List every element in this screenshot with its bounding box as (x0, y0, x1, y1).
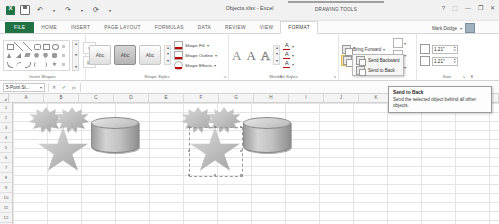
shape-style-gallery-scroll[interactable]: ▴ ▾ ▾ (164, 45, 171, 65)
shape-curve-icon[interactable] (16, 62, 21, 68)
column-header-j[interactable]: J (324, 94, 359, 102)
row-header-8[interactable]: 8 (0, 173, 12, 183)
shape-height-input[interactable]: 1.21" ▴▾ (432, 45, 458, 54)
close-button[interactable]: ✕ (490, 4, 495, 12)
shape-right-triangle-icon[interactable] (16, 53, 21, 58)
name-box-caret-icon[interactable]: ▾ (40, 85, 42, 90)
shape-left-burst-2[interactable] (55, 107, 89, 133)
collapse-ribbon-button[interactable]: ∧ (470, 73, 474, 79)
user-account[interactable]: Mark Dodge ▾ (432, 23, 475, 33)
tab-home[interactable]: HOME (34, 22, 64, 33)
row-header-6[interactable]: 6 (0, 153, 12, 163)
column-header-a[interactable]: A (9, 94, 44, 102)
shapes-gallery-more-icon[interactable]: ▾ (73, 65, 78, 69)
shape-bracket-icon[interactable] (34, 62, 38, 67)
menu-item-send-to-back[interactable]: Send to Back (353, 65, 403, 75)
shape-rectangle-icon[interactable] (7, 44, 14, 50)
bring-forward-caret-icon[interactable]: ▾ (383, 47, 385, 52)
shape-hexagon-icon[interactable] (43, 53, 48, 58)
name-box[interactable]: 5-Point St... ▾ (3, 83, 45, 92)
shape-style-2-selected[interactable]: Abc (114, 45, 136, 65)
selection-pane-button[interactable]: ▾ (393, 38, 406, 48)
wordart-style-2[interactable]: A (246, 49, 255, 62)
shape-triangle-icon[interactable] (7, 53, 11, 58)
shape-oval-icon[interactable] (52, 44, 59, 50)
shape-arrow-icon[interactable] (23, 42, 32, 51)
wordart-gallery[interactable]: A A A (232, 49, 270, 62)
tab-page-layout[interactable]: PAGE LAYOUT (97, 22, 147, 33)
tab-formulas[interactable]: FORMULAS (148, 22, 191, 33)
wordart-gallery-scroll[interactable]: ▴ ▾ ▾ (273, 45, 280, 65)
shape-style-gallery[interactable]: Abc Abc Abc ▴ ▾ ▾ (89, 45, 171, 65)
row-header-13[interactable]: 13 (0, 223, 12, 224)
bring-forward-button[interactable]: Bring Forward ▾ (342, 45, 391, 54)
shape-star-icon[interactable] (52, 62, 57, 67)
tab-review[interactable]: REVIEW (218, 22, 253, 33)
enter-formula-icon[interactable]: ✓ (62, 84, 66, 90)
shape-effects-button[interactable]: Shape Effects ▾ (174, 61, 217, 70)
restore-button[interactable]: ❐ (478, 4, 483, 12)
cancel-formula-icon[interactable]: ✕ (52, 84, 56, 90)
shapes-scroll-up-icon[interactable]: ▴ (73, 42, 78, 46)
shape-more-3-icon[interactable] (62, 63, 65, 66)
row-header-2[interactable]: 2 (0, 113, 12, 123)
wordart-style-1[interactable]: A (232, 49, 241, 62)
column-header-e[interactable]: E (149, 94, 184, 102)
shape-outline-caret-icon[interactable]: ▾ (215, 53, 217, 58)
wordart-gallery-more-icon[interactable]: ▾ (274, 59, 279, 65)
shapes-grid[interactable] (3, 40, 70, 71)
shape-line-icon[interactable] (14, 42, 23, 51)
shape-height-stepper[interactable]: ▴▾ (454, 46, 456, 51)
shape-left-star[interactable] (37, 127, 89, 175)
row-header-12[interactable]: 12 (0, 213, 12, 223)
shape-outline-button[interactable]: Shape Outline ▾ (174, 51, 217, 60)
column-header-i[interactable]: I (289, 94, 324, 102)
shape-brace-icon[interactable] (43, 62, 47, 67)
shape-effects-caret-icon[interactable]: ▾ (214, 63, 216, 68)
shape-style-3[interactable]: Abc (139, 45, 161, 65)
style-gallery-more-icon[interactable]: ▾ (165, 59, 170, 65)
shape-arc-icon[interactable] (7, 62, 13, 68)
shape-rounded-rect-icon[interactable] (34, 44, 41, 50)
text-outline-caret-icon[interactable]: ▾ (292, 53, 294, 58)
shapes-scroll-down-icon[interactable]: ▾ (73, 53, 78, 57)
tab-insert[interactable]: INSERT (64, 22, 97, 33)
style-scroll-up-icon[interactable]: ▴ (165, 46, 170, 52)
row-header-4[interactable]: 4 (0, 133, 12, 143)
tab-file[interactable]: FILE (5, 22, 34, 33)
ribbon-display-options-icon[interactable]: ⬚ (452, 4, 458, 12)
column-header-h[interactable]: H (254, 94, 289, 102)
shape-square-icon[interactable] (43, 44, 50, 50)
shape-style-1[interactable]: Abc (89, 45, 111, 65)
insert-function-icon[interactable]: fx (72, 85, 76, 90)
shape-pentagon-icon[interactable] (34, 53, 39, 58)
shape-fill-button[interactable]: Shape Fill ▾ (174, 41, 217, 50)
column-header-d[interactable]: D (114, 94, 149, 102)
shape-left-cylinder[interactable] (91, 117, 139, 153)
column-header-c[interactable]: C (79, 94, 114, 102)
text-outline-button[interactable]: A ▾ (283, 51, 294, 59)
shape-width-input[interactable]: 1.21" ▴▾ (432, 57, 458, 66)
menu-item-send-backward[interactable]: Send Backward (353, 55, 403, 65)
wordart-dialog-launcher[interactable]: ↘ (333, 74, 336, 79)
shapes-gallery[interactable]: ▴ ▾ ▾ ⬡ ▤ (3, 40, 96, 71)
minimize-button[interactable]: — (465, 4, 471, 12)
shapes-gallery-scroll[interactable]: ▴ ▾ ▾ (72, 40, 79, 71)
text-fill-button[interactable]: A ▾ (283, 42, 294, 50)
shape-cylinder-icon[interactable] (52, 53, 57, 58)
wordart-scroll-down-icon[interactable]: ▾ (274, 52, 279, 58)
shape-right-cylinder[interactable] (243, 117, 291, 153)
size-dialog-launcher[interactable]: ↘ (462, 74, 465, 79)
selection-pane-caret-icon[interactable]: ▾ (404, 41, 406, 46)
row-header-11[interactable]: 11 (0, 203, 12, 213)
select-all-corner[interactable] (0, 94, 9, 102)
column-header-g[interactable]: G (219, 94, 254, 102)
tab-format[interactable]: FORMAT (280, 21, 318, 34)
text-effects-caret-icon[interactable]: ▾ (292, 62, 294, 67)
shape-more-2-icon[interactable] (62, 54, 65, 57)
wordart-style-3[interactable]: A (261, 49, 270, 62)
row-header-1[interactable]: 1 (0, 103, 12, 113)
row-header-9[interactable]: 9 (0, 183, 12, 193)
style-scroll-down-icon[interactable]: ▾ (165, 52, 170, 58)
tab-view[interactable]: VIEW (253, 22, 280, 33)
